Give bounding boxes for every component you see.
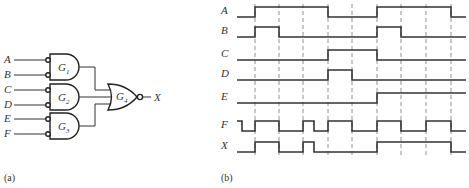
inversion-bubble-icon [46, 117, 50, 121]
waveform-f [237, 121, 466, 131]
interconnect-wires [79, 67, 114, 126]
signal-label-x: X [220, 139, 229, 151]
gate-label: G [58, 61, 66, 73]
inversion-bubble-icon [46, 103, 50, 107]
waveform-e [237, 93, 466, 103]
signal-label-a: A [220, 4, 228, 16]
waveform-c [237, 50, 466, 60]
timing-diagram: ABCDEFX (b) [220, 4, 466, 184]
signal-label-e: E [220, 90, 228, 102]
gate-g3: G 3 [46, 113, 79, 139]
waveforms [237, 7, 466, 152]
svg-text:3: 3 [65, 127, 70, 135]
input-label-c: C [4, 83, 12, 95]
gate-g1: G 1 [46, 54, 79, 80]
gate-label: G [58, 91, 66, 103]
inversion-bubble-icon [46, 73, 50, 77]
gate-g4: G 4 X [108, 84, 162, 110]
output-label-x: X [153, 91, 162, 103]
gate-g2: G 2 [46, 84, 79, 110]
inversion-bubble-icon [46, 88, 50, 92]
signal-label-f: F [220, 118, 228, 130]
gate-label: G [58, 120, 66, 132]
inversion-bubble-icon [46, 58, 50, 62]
caption-b: (b) [221, 172, 233, 184]
input-label-e: E [3, 112, 11, 124]
waveform-a [237, 7, 466, 17]
caption-a: (a) [4, 172, 15, 184]
signal-labels: ABCDEFX [220, 4, 229, 151]
svg-text:4: 4 [124, 97, 128, 105]
svg-text:1: 1 [66, 68, 70, 76]
signal-label-c: C [221, 47, 229, 59]
input-label-d: D [3, 98, 12, 110]
input-label-f: F [3, 127, 11, 139]
circuit-diagram: A B C D E F G 1 G 2 [3, 53, 162, 184]
svg-text:2: 2 [66, 98, 70, 106]
signal-label-b: B [221, 24, 228, 36]
logic-figure: A B C D E F G 1 G 2 [0, 0, 469, 188]
inversion-bubble-icon [46, 132, 50, 136]
signal-label-d: D [220, 67, 229, 79]
waveform-x [237, 142, 466, 152]
gate-label: G [116, 90, 124, 102]
waveform-d [237, 70, 466, 80]
input-wires [14, 60, 46, 134]
inversion-bubble-icon [137, 94, 142, 99]
waveform-b [237, 27, 466, 37]
input-label-b: B [4, 68, 11, 80]
input-label-a: A [3, 53, 11, 65]
